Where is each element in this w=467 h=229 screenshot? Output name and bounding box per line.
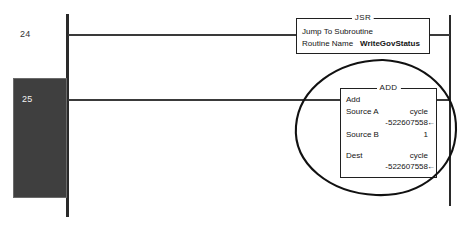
right-power-rail [449,15,451,206]
rung-number-25[interactable]: 25 [22,94,32,104]
add-dest-label: Dest [346,151,362,160]
add-dest-value: -522607558 [385,162,428,171]
rung-25-wire-left [68,99,341,101]
rung-24-wire-left [68,34,297,36]
jsr-mnemonic-label: JSR [352,13,374,22]
jsr-routine-name-label: Routine Name [302,39,353,48]
jsr-instruction-block[interactable]: JSR Jump To Subroutine Routine Name Writ… [296,18,430,54]
add-operation-label: Add [346,95,360,104]
jsr-routine-name-value[interactable]: WriteGovStatus [360,39,420,48]
add-source-a-label: Source A [346,107,378,116]
add-source-a-value: -522607558 [385,118,428,127]
add-mnemonic-label: ADD [376,83,400,92]
add-dest-tag[interactable]: cycle [410,151,428,160]
add-instruction-block[interactable]: ADD Add Source A cycle -522607558 ← Sour… [340,88,437,178]
rung-number-24[interactable]: 24 [20,29,30,39]
rung-25-wire-right [437,99,450,101]
add-source-b-value[interactable]: 1 [424,130,428,139]
live-value-arrow-icon: ← [427,119,435,127]
add-source-a-tag[interactable]: cycle [410,107,428,116]
rung-24-wire-right [429,34,450,36]
jsr-operation-label: Jump To Subroutine [302,27,373,36]
add-source-b-label: Source B [346,130,379,139]
live-value-arrow-icon: ← [427,163,435,171]
ladder-logic-screenshot: 24 25 JSR Jump To Subroutine Routine Nam… [0,0,467,229]
